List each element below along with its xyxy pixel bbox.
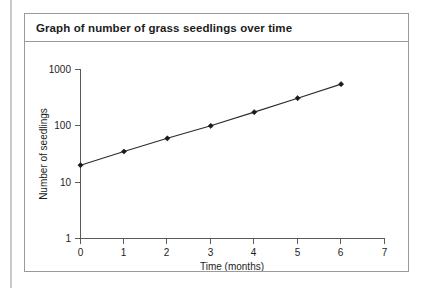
figure-container: Graph of number of grass seedlings over … [24, 13, 409, 272]
x-tick-label-0: 0 [78, 247, 84, 258]
y-axis-title: Number of seedlings [38, 108, 49, 200]
data-point-marker [252, 110, 257, 115]
data-point-marker [78, 163, 83, 168]
x-tick-label-1: 1 [121, 247, 127, 258]
figure-title: Graph of number of grass seedlings over … [25, 22, 292, 34]
y-axis-ticks [75, 70, 81, 239]
x-tick-label-3: 3 [208, 247, 214, 258]
data-point-marker [295, 96, 300, 101]
chart-plot-area: 1000 100 10 1 Number of seedlings 0 1 2 … [25, 42, 408, 271]
data-point-marker [165, 136, 170, 141]
y-tick-label-10: 10 [60, 177, 72, 188]
x-tick-label-6: 6 [338, 247, 344, 258]
x-tick-label-5: 5 [295, 247, 301, 258]
data-point-marker [338, 82, 343, 87]
x-tick-label-7: 7 [382, 247, 388, 258]
x-axis-title: Time (months) [200, 261, 264, 271]
x-tick-label-4: 4 [251, 247, 257, 258]
line-chart: 1000 100 10 1 Number of seedlings 0 1 2 … [25, 42, 408, 271]
y-tick-label-100: 100 [54, 120, 71, 131]
data-point-marker [121, 149, 126, 154]
x-tick-label-2: 2 [164, 247, 170, 258]
y-tick-label-1000: 1000 [49, 64, 72, 75]
x-axis-ticks [81, 239, 385, 245]
data-point-marker [208, 123, 213, 128]
series-markers [78, 82, 344, 168]
y-tick-label-1: 1 [65, 233, 71, 244]
page-margin-rule [10, 0, 12, 288]
figure-header: Graph of number of grass seedlings over … [25, 14, 408, 42]
